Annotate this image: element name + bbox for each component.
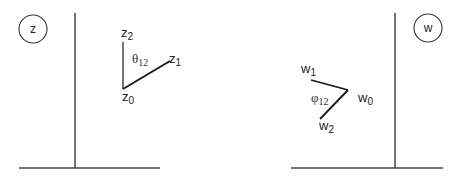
w1-label: w1 [300,61,316,78]
theta-12-label: θ12 [132,51,148,68]
z2-label: z2 [121,25,134,42]
conformal-map-diagram: z z2 z1 z0 θ12 w w1 w0 w2 φ12 [0,0,459,177]
w-plane-badge-label: w [423,21,433,35]
z-plane-badge-label: z [30,22,36,36]
w0-w1-segment [311,80,348,90]
w2-label: w2 [318,118,334,135]
z1-label: z1 [169,51,182,68]
w0-label: w0 [357,90,373,107]
w-plane: w w1 w0 w2 φ12 [291,13,443,168]
phi-12-label: φ12 [311,90,329,107]
z0-label: z0 [122,89,135,106]
z-plane: z z2 z1 z0 θ12 [19,13,182,168]
